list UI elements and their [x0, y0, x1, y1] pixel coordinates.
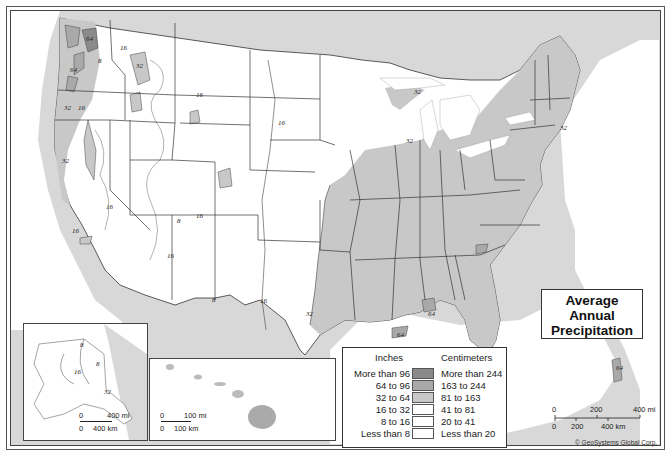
- alaska-scale-bar: 0 400 mi 0 400 km: [79, 411, 139, 436]
- contour-label: 16: [196, 212, 204, 220]
- alaska-contour-32: 32: [103, 388, 112, 396]
- contour-label: 64: [428, 310, 436, 318]
- contour-label: 32: [61, 157, 70, 165]
- contour-label: 32: [135, 62, 144, 70]
- alaska-contour-8b: 8: [96, 360, 100, 368]
- contour-label: 8: [98, 57, 102, 65]
- contour-label: 8: [212, 296, 216, 304]
- legend-swatch-less-than-8: [412, 428, 434, 439]
- contour-label: 16: [196, 91, 204, 99]
- legend-swatch-8-to-16: [412, 416, 434, 427]
- legend-row: More than 96 More than 244: [343, 368, 506, 380]
- contour-label: 16: [78, 104, 86, 112]
- hawaii-scale-bar: 0 100 mi 0 100 km: [160, 411, 240, 436]
- copyright-notice: © GeoSystems Global Corp.: [575, 439, 657, 446]
- legend-row: Less than 8 Less than 20: [343, 428, 506, 440]
- legend-swatch-32-to-64: [412, 392, 434, 403]
- main-scale-labels: 0 200 400 mi 0 200 400 km: [551, 405, 661, 435]
- contour-label: 64: [397, 331, 405, 339]
- title-line-3: Precipitation: [542, 323, 642, 338]
- contour-label: 16: [260, 297, 268, 305]
- precipitation-legend: Inches Centimeters More than 96 More tha…: [342, 347, 507, 448]
- alaska-contour-16: 16: [74, 368, 82, 376]
- legend-row: 8 to 16 20 to 41: [343, 416, 506, 428]
- contour-label: 64: [616, 364, 624, 372]
- legend-row: 16 to 32 41 to 81: [343, 404, 506, 416]
- title-line-2: Annual: [542, 308, 642, 323]
- legend-swatch-64-to-96: [412, 380, 434, 391]
- island-maui: [232, 390, 244, 398]
- legend-row: 32 to 64 81 to 163: [343, 392, 506, 404]
- legend-header-cm: Centimeters: [441, 352, 492, 363]
- alaska-inset: 8 8 16 32 0 400 mi 0 400 km: [23, 323, 148, 441]
- contour-label: 16: [106, 203, 114, 211]
- contour-label: 16: [72, 227, 80, 235]
- contour-label: 32: [559, 124, 568, 132]
- island-hawaii: [248, 405, 276, 429]
- contour-label: 32: [405, 137, 414, 145]
- region-32-to-64-rockies-c: [130, 92, 142, 112]
- legend-header-inches: Inches: [375, 352, 403, 363]
- title-line-1: Average: [542, 293, 642, 308]
- legend-swatch-more-than-96: [412, 368, 434, 379]
- contour-label: 64: [86, 35, 94, 43]
- contour-label: 16: [278, 119, 286, 127]
- contour-label: 32: [63, 104, 72, 112]
- contour-label: 8: [177, 217, 181, 225]
- region-32-to-64-wyoming: [190, 110, 200, 124]
- contour-label: 32: [413, 88, 422, 96]
- contour-label: 16: [120, 44, 128, 52]
- legend-swatch-16-to-32: [412, 404, 434, 415]
- legend-row: 64 to 96 163 to 244: [343, 380, 506, 392]
- contour-label: 16: [167, 252, 175, 260]
- island-molokai: [214, 382, 226, 386]
- island-oahu: [194, 375, 202, 380]
- hawaii-inset: 0 100 mi 0 100 km: [149, 358, 336, 441]
- island-kauai: [166, 364, 174, 370]
- alaska-contour-8: 8: [80, 341, 84, 349]
- contour-label: 32: [305, 310, 314, 318]
- contour-label: 64: [70, 66, 78, 74]
- map-title: Average Annual Precipitation: [541, 289, 643, 339]
- region-32-to-64-socal: [80, 236, 92, 244]
